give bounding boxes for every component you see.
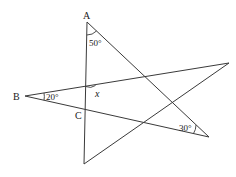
angle-arc-a <box>87 31 97 35</box>
point-label-a: A <box>83 10 91 21</box>
point-label-c: C <box>75 110 82 121</box>
angle-label-a: 50° <box>89 38 102 48</box>
line-a-to-bottom <box>84 22 87 164</box>
angle-label-bottom-right: 30° <box>179 123 192 133</box>
geometry-diagram: A B C 50° 20° x 30° <box>0 0 236 177</box>
angle-label-x: x <box>94 88 100 99</box>
angle-label-b: 20° <box>46 92 59 102</box>
angle-arc-bottom-right <box>194 125 197 134</box>
point-label-b: B <box>13 91 20 102</box>
